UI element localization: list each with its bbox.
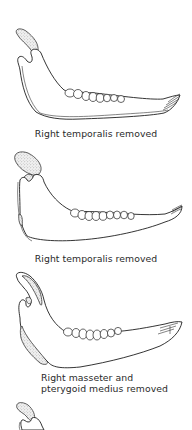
mandible-illustration — [0, 140, 192, 252]
panel-caption: Right temporalis removed — [0, 253, 192, 264]
panel-caption: Right temporalis removed — [0, 128, 192, 139]
coronoid-muscle-stipple — [15, 152, 41, 176]
mandible-body — [18, 49, 180, 119]
mandible-body — [16, 272, 182, 367]
mandible-illustration — [0, 0, 192, 125]
figure-panel-2: Right temporalis removed — [0, 140, 192, 268]
mandible-illustration — [0, 268, 192, 370]
mandible-body-partial — [21, 417, 44, 430]
condyle-muscle-stipple — [26, 297, 32, 303]
mandible-illustration — [0, 400, 192, 430]
teeth-row — [71, 209, 135, 221]
figure-panel-1: Right temporalis removed — [0, 0, 192, 140]
figure-panel-3: Right masseter and pterygoid medius remo… — [0, 268, 192, 402]
figure-panel-4 — [0, 400, 192, 430]
panel-caption-line-2: pterygoid medius removed — [41, 383, 191, 394]
mandible-body — [20, 174, 182, 240]
panel-caption-line-1: Right masseter and — [41, 372, 191, 383]
